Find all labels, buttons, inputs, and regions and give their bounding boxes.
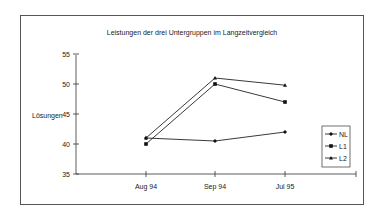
x-tick-label: Jul 95	[276, 183, 295, 190]
x-tick-label: Sep 94	[204, 183, 226, 191]
svg-text:L1: L1	[339, 143, 347, 150]
series-l1	[144, 82, 287, 146]
chart-canvas: 3540455055 Aug 94Sep 94Jul 95 Lösungen N…	[0, 0, 384, 218]
series-lines	[144, 76, 287, 146]
legend: NLL1L2	[322, 126, 350, 167]
x-tick-label: Aug 94	[135, 183, 157, 191]
y-tick-label: 35	[62, 171, 70, 178]
y-tick-label: 55	[62, 51, 70, 58]
y-tick-label: 50	[62, 81, 70, 88]
svg-text:L2: L2	[339, 155, 347, 162]
y-tick-label: 45	[62, 111, 70, 118]
series-nl	[144, 130, 287, 143]
y-tick-label: 40	[62, 141, 70, 148]
svg-text:NL: NL	[339, 131, 348, 138]
y-ticks: 3540455055	[62, 51, 79, 178]
y-axis-label: Lösungen	[32, 112, 63, 120]
